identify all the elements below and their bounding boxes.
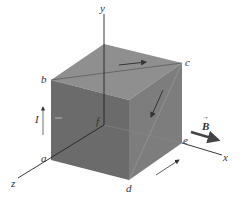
axis-label-y: y [100,3,105,14]
vertex-label-e: e [183,135,188,146]
current-arrow-bottom [156,160,179,175]
current-label-I: I [35,114,39,125]
magnetic-field-arrow [191,132,218,140]
vertex-label-d: d [126,183,132,194]
x-axis [182,143,222,155]
axis-label-x: x [223,152,228,163]
vertex-label-a: a [41,153,47,164]
axis-label-z: z [11,178,15,189]
field-label-B: B [202,121,209,132]
vertex-label-c: c [185,57,190,68]
cube-diagram [0,0,241,202]
field-vector-arrow: → [202,114,209,121]
vertex-label-f: f [96,116,99,127]
vertex-label-b: b [41,74,47,85]
